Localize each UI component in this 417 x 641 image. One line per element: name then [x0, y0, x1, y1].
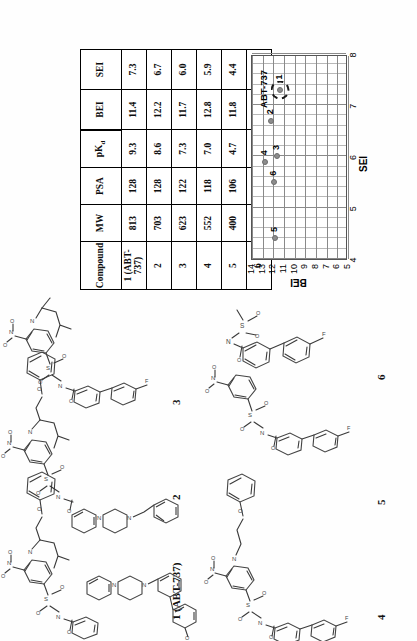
- svg-text:O: O: [8, 429, 13, 435]
- gridline-vertical: [252, 166, 346, 167]
- svg-text:S: S: [44, 596, 48, 602]
- svg-text:O: O: [205, 388, 210, 394]
- column-header-sei: SEI: [81, 50, 122, 90]
- gridline-vertical: [252, 258, 346, 259]
- svg-text:O: O: [238, 508, 243, 514]
- gridline-vertical: [252, 125, 346, 126]
- cell-mw: 552: [197, 205, 222, 242]
- table-row: 45521187.012.85.9: [197, 50, 222, 290]
- pkd-base: pK: [94, 145, 104, 158]
- svg-text:O: O: [69, 398, 74, 404]
- gridline-vertical: [252, 135, 346, 136]
- cell-bei: 11.4: [122, 90, 147, 131]
- x-tick-label: 7: [348, 104, 358, 109]
- cell-sei: 7.3: [122, 50, 147, 90]
- svg-text:N: N: [112, 582, 116, 588]
- svg-text:O: O: [60, 464, 65, 470]
- data-point-label: 6: [268, 171, 278, 176]
- gridline-vertical: [252, 186, 346, 187]
- svg-text:N: N: [30, 318, 34, 324]
- gridline-vertical: [252, 248, 346, 249]
- pkd-subscript: d: [99, 141, 107, 145]
- svg-text:N: N: [226, 338, 231, 345]
- structure-compound-6: S O O N O F: [212, 300, 372, 380]
- svg-text:N: N: [56, 494, 60, 500]
- svg-text:N: N: [56, 614, 60, 620]
- svg-text:O: O: [10, 318, 15, 324]
- data-point[interactable]: [277, 87, 283, 93]
- column-header-pkd: pKd: [81, 130, 122, 168]
- svg-text:O: O: [262, 590, 267, 596]
- cell-compound: 2: [147, 242, 172, 290]
- table-row: 1 (ABT-737)8131289.311.47.3: [122, 50, 147, 290]
- gridline-vertical: [252, 176, 346, 177]
- svg-text:N: N: [28, 429, 32, 435]
- svg-text:N: N: [97, 515, 101, 521]
- gridline-vertical: [252, 197, 346, 198]
- cell-psa: 128: [147, 168, 172, 205]
- svg-text:N: N: [260, 430, 264, 436]
- cell-bei: 12.2: [147, 90, 172, 131]
- x-tick-label: 6: [348, 155, 358, 160]
- data-point[interactable]: [268, 118, 274, 124]
- y-tick-label: 7: [321, 264, 331, 282]
- svg-text:N: N: [58, 383, 62, 389]
- data-point-label: 4: [259, 150, 269, 155]
- data-point[interactable]: [271, 179, 277, 185]
- svg-text:O: O: [36, 490, 41, 496]
- svg-text:O: O: [211, 555, 216, 561]
- y-axis-label: BEI: [287, 277, 311, 288]
- y-tick-label: 13: [257, 264, 267, 282]
- gridline-vertical: [252, 115, 346, 116]
- gridline-vertical: [252, 207, 346, 208]
- gridline-horizontal: [305, 56, 306, 259]
- cell-pkd: 9.3: [122, 130, 147, 168]
- cell-mw: 813: [122, 205, 147, 242]
- svg-text:S: S: [240, 322, 245, 329]
- gridline-vertical: [252, 156, 346, 157]
- scatter-chart: 123456ABT-737 45678 567891011121314 SEI …: [243, 38, 371, 290]
- data-point[interactable]: [272, 236, 278, 242]
- data-point-label: 1: [274, 74, 284, 79]
- cell-psa: 122: [172, 168, 197, 205]
- cell-mw: 703: [147, 205, 172, 242]
- bei-sei-chart-container: 123456ABT-737 45678 567891011121314 SEI …: [243, 38, 371, 290]
- plot-area: 123456ABT-737: [251, 55, 347, 260]
- structure-label-5: 5: [375, 500, 387, 506]
- data-point-label: 5: [269, 227, 279, 232]
- x-tick-label: 4: [348, 257, 358, 262]
- svg-text:O: O: [60, 584, 65, 590]
- cell-psa: 118: [197, 168, 222, 205]
- svg-text:F: F: [345, 615, 349, 621]
- gridline-vertical: [252, 227, 346, 228]
- cell-pkd: 8.6: [147, 130, 172, 168]
- y-tick-label: 5: [342, 264, 352, 282]
- structure-label-4: 4: [375, 615, 387, 621]
- table-row: 27031288.612.26.7: [147, 50, 172, 290]
- column-header-bei: BEI: [81, 90, 122, 131]
- cell-compound: 1 (ABT-737): [122, 242, 147, 290]
- y-tick-label: 12: [267, 264, 277, 282]
- svg-text:F: F: [322, 331, 326, 337]
- gridline-horizontal: [295, 56, 296, 259]
- cell-mw: 623: [172, 205, 197, 242]
- svg-text:O: O: [238, 616, 243, 622]
- data-point-label: 3: [271, 145, 281, 150]
- svg-text:O: O: [62, 353, 67, 359]
- x-axis-label: SEI: [358, 156, 369, 172]
- y-tick-label: 8: [310, 264, 320, 282]
- column-header-psa: PSA: [81, 168, 122, 205]
- svg-text:S: S: [46, 365, 50, 371]
- svg-text:O: O: [67, 629, 72, 635]
- svg-text:O: O: [264, 400, 269, 406]
- svg-text:O: O: [269, 634, 274, 640]
- figure-page: Compound MW PSA pKd BEI SEI 1 (ABT-737)8…: [0, 0, 417, 641]
- svg-text:O: O: [8, 549, 13, 555]
- svg-text:O: O: [256, 310, 261, 316]
- svg-text:N: N: [142, 582, 146, 588]
- data-point[interactable]: [274, 154, 280, 160]
- y-tick-label: 6: [331, 264, 341, 282]
- svg-text:O: O: [237, 357, 242, 363]
- data-point[interactable]: [262, 159, 268, 165]
- svg-text:O: O: [185, 635, 190, 641]
